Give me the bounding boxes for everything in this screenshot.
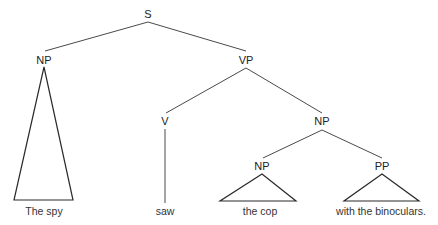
leaf-saw: saw [156,206,175,217]
triangle-pp [344,174,419,201]
triangle-np-inner [220,174,296,201]
edge-vp-np [246,68,322,113]
leaf-with-the-binoculars: with the binoculars. [336,206,426,217]
edge-s-vp [148,22,246,51]
leaf-the-spy: The spy [25,206,62,217]
edge-np-np [263,130,322,158]
node-s: S [144,9,151,20]
triangle-np-subject [14,67,73,200]
edge-s-np [45,22,148,51]
edge-vp-v [166,68,246,113]
node-np-object: NP [314,116,329,127]
node-vp: VP [239,55,254,66]
syntax-tree-diagram [0,0,438,225]
node-np-subject: NP [36,55,51,66]
edge-np-pp [322,130,382,158]
node-pp: PP [375,161,390,172]
leaf-the-cop: the cop [243,206,277,217]
node-v: V [161,116,168,127]
node-np-inner: NP [254,161,269,172]
